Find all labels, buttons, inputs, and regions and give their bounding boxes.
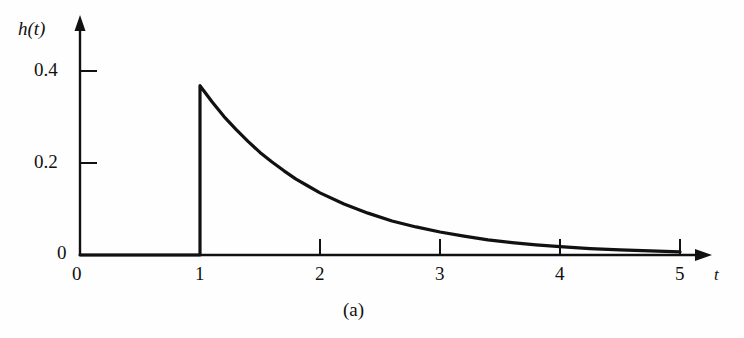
plot-area [0,0,744,338]
y-tick-label-0: 0 [57,243,67,262]
y-axis-label: h(t) [18,19,45,38]
x-tick-label-0: 0 [72,264,82,283]
x-tick-label-4: 4 [555,264,565,283]
x-axis-arrowhead [695,249,712,261]
y-tick-label-0.4: 0.4 [34,60,58,79]
x-tick-label-5: 5 [675,264,685,283]
figure-caption: (a) [343,300,364,319]
x-tick-label-1: 1 [195,264,205,283]
y-axis-arrowhead [75,15,86,31]
data-curve-h-of-t [80,86,680,255]
x-axis-label: t [714,266,719,283]
x-tick-label-3: 3 [435,264,445,283]
y-tick-label-0.2: 0.2 [34,152,58,171]
figure-panel-a: h(t) 0.4 0.2 0 0 1 2 3 4 5 t (a) [0,0,744,338]
x-tick-label-2: 2 [315,264,325,283]
